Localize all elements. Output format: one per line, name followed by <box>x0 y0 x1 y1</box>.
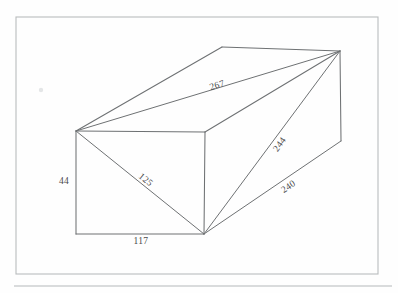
label-height: 44 <box>59 176 69 186</box>
canvas-stage: 44 117 125 267 244 240 <box>0 0 398 293</box>
label-width: 117 <box>134 236 149 246</box>
prism-diagram: 44 117 125 267 244 240 <box>0 0 398 293</box>
scan-speck <box>39 88 43 92</box>
